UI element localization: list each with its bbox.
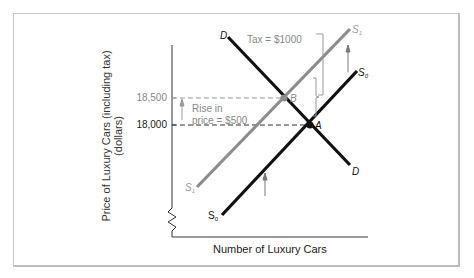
label-point-a: A xyxy=(314,120,322,131)
y-axis-label: Price of Luxury Cars (including tax) (do… xyxy=(100,50,124,221)
label-s1-top: S1 xyxy=(352,24,362,36)
label-s1-bottom: S1 xyxy=(185,182,195,194)
label-s0-top: S0 xyxy=(358,67,369,79)
x-axis-label: Number of Luxury Cars xyxy=(213,243,327,255)
shift-arrow-upper xyxy=(346,45,350,72)
equilibrium-point-b xyxy=(280,94,287,101)
label-d-bottom: D xyxy=(352,166,359,177)
tax-annotation: Tax = $1000 xyxy=(247,34,302,45)
supply-demand-diagram: 18,500 18,000 Tax = $1000 Rise in price … xyxy=(0,0,474,278)
label-point-b: B xyxy=(290,93,297,104)
y-axis-label-line1: Price of Luxury Cars (including tax) xyxy=(100,50,112,221)
equilibrium-point-a xyxy=(306,121,313,128)
axis-break-zigzag xyxy=(168,208,176,237)
label-s0-bottom: S0 xyxy=(208,210,219,222)
rise-in-price-line1: Rise in xyxy=(192,103,223,114)
y-axis-label-line2: (dollars) xyxy=(112,50,124,221)
rise-in-price-arrow xyxy=(180,99,184,120)
tick-label-18500: 18,500 xyxy=(136,92,167,103)
shift-arrow-lower xyxy=(263,173,267,196)
tick-label-18000: 18,000 xyxy=(136,119,167,130)
label-d-top: D xyxy=(220,30,227,41)
rise-in-price-line2: price = $500 xyxy=(192,115,248,126)
